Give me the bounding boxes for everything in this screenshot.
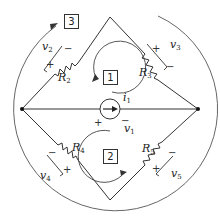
r3-label: R3 (139, 67, 152, 80)
v2-label: v2 (42, 41, 53, 54)
r5-label: R5 (142, 143, 155, 156)
current-source-i1 (100, 99, 120, 119)
r2-label: R2 (58, 72, 71, 85)
v3-label: v3 (170, 39, 181, 52)
loop-1-label: 1 (103, 70, 118, 85)
circuit-diagram (0, 0, 220, 221)
v5-minus: − (168, 148, 176, 158)
v4-plus: + (63, 165, 71, 175)
v4-label: v4 (40, 170, 51, 183)
v2-minus: − (64, 44, 72, 54)
node-left (20, 107, 24, 111)
loop-1-arc (92, 41, 146, 93)
node-right (196, 107, 200, 111)
i1-label: i1 (123, 92, 131, 105)
v5-plus: + (152, 164, 160, 174)
v1-plus: + (94, 118, 102, 128)
v4-minus: − (48, 148, 56, 158)
v1-minus: − (121, 116, 129, 126)
v3-plus: + (152, 44, 160, 54)
loop-3-label: 3 (64, 14, 79, 29)
v3-minus: − (166, 62, 174, 72)
v5-label: v5 (171, 168, 182, 181)
v2-plus: + (46, 60, 54, 70)
loop-2-label: 2 (103, 149, 118, 164)
r4-label: R4 (72, 142, 85, 155)
